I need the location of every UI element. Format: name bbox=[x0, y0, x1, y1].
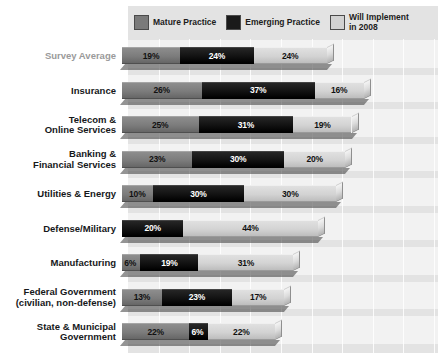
bar-segment-mature[interactable]: 22% bbox=[122, 323, 189, 340]
bar-segment-mature[interactable]: 25% bbox=[122, 116, 199, 133]
bar-end-cap bbox=[345, 147, 352, 167]
segment-value-label: 24% bbox=[209, 51, 225, 61]
bar-end-cap bbox=[284, 285, 291, 305]
bar-area: 6%19%31% bbox=[122, 246, 438, 281]
category-label: Survey Average bbox=[0, 51, 122, 62]
segment-value-label: 10% bbox=[129, 189, 145, 199]
bar-area: 22%6%22% bbox=[122, 315, 438, 350]
stacked-bar[interactable]: 25%31%19% bbox=[122, 116, 351, 133]
bar-end-cap bbox=[318, 216, 325, 236]
bar-segment-will[interactable]: 30% bbox=[244, 185, 336, 202]
bar-segment-will[interactable]: 20% bbox=[284, 151, 345, 168]
category-label: Banking & Financial Services bbox=[0, 149, 122, 170]
chart-legend: Mature PracticeEmerging PracticeWill Imp… bbox=[128, 6, 438, 39]
bar-segment-mature[interactable]: 23% bbox=[122, 151, 192, 168]
bar-shadow bbox=[120, 340, 280, 346]
segment-value-label: 30% bbox=[190, 189, 206, 199]
segment-value-label: 19% bbox=[143, 51, 159, 61]
bar-segment-emerging[interactable]: 31% bbox=[199, 116, 294, 133]
segment-value-label: 23% bbox=[149, 154, 165, 164]
bar-shadow bbox=[120, 99, 369, 105]
chart-row: Insurance26%37%16% bbox=[0, 74, 438, 109]
bar-segment-will[interactable]: 17% bbox=[232, 289, 284, 306]
bar-segment-will[interactable]: 44% bbox=[183, 220, 318, 237]
bar-segment-emerging[interactable]: 20% bbox=[122, 220, 183, 237]
chart-row: State & Municipal Government22%6%22% bbox=[0, 315, 438, 350]
bar-segment-emerging[interactable]: 30% bbox=[192, 151, 284, 168]
segment-value-label: 20% bbox=[307, 154, 323, 164]
bar-area: 25%31%19% bbox=[122, 108, 438, 143]
chart-row: Survey Average19%24%24% bbox=[0, 39, 438, 74]
segment-value-label: 22% bbox=[233, 327, 249, 337]
bar-segment-emerging[interactable]: 24% bbox=[180, 47, 253, 64]
bar-area: 26%37%16% bbox=[122, 74, 438, 109]
bar-shadow bbox=[120, 306, 289, 312]
chart-row: Telecom & Online Services25%31%19% bbox=[0, 108, 438, 143]
bar-shadow bbox=[120, 237, 323, 243]
legend-item-will-implement[interactable]: Will Implement in 2008 bbox=[330, 13, 409, 32]
stacked-bar[interactable]: 23%30%20% bbox=[122, 151, 345, 168]
category-label: Manufacturing bbox=[0, 258, 122, 269]
segment-value-label: 22% bbox=[147, 327, 163, 337]
legend-item-mature[interactable]: Mature Practice bbox=[134, 15, 216, 30]
bar-segment-mature[interactable]: 19% bbox=[122, 47, 180, 64]
segment-value-label: 19% bbox=[314, 120, 330, 130]
bar-shadow bbox=[120, 133, 357, 139]
segment-value-label: 17% bbox=[250, 292, 266, 302]
stacked-bar[interactable]: 22%6%22% bbox=[122, 323, 275, 340]
bar-segment-will[interactable]: 22% bbox=[208, 323, 275, 340]
segment-value-label: 24% bbox=[282, 51, 298, 61]
legend-item-emerging[interactable]: Emerging Practice bbox=[226, 15, 320, 30]
bar-shadow bbox=[120, 202, 341, 208]
segment-value-label: 30% bbox=[282, 189, 298, 199]
segment-value-label: 20% bbox=[144, 223, 160, 233]
category-label: Utilities & Energy bbox=[0, 189, 122, 200]
segment-value-label: 16% bbox=[331, 85, 347, 95]
segment-value-label: 25% bbox=[152, 120, 168, 130]
bar-segment-emerging[interactable]: 37% bbox=[202, 82, 315, 99]
stacked-bar[interactable]: 20%44% bbox=[122, 220, 318, 237]
bar-shadow bbox=[120, 168, 350, 174]
bar-segment-will[interactable]: 19% bbox=[293, 116, 351, 133]
segment-value-label: 6% bbox=[192, 327, 204, 337]
bar-segment-will[interactable]: 16% bbox=[315, 82, 364, 99]
segment-value-label: 30% bbox=[230, 154, 246, 164]
bar-area: 23%30%20% bbox=[122, 143, 438, 178]
stacked-bar[interactable]: 6%19%31% bbox=[122, 254, 293, 271]
bar-segment-emerging[interactable]: 30% bbox=[153, 185, 245, 202]
bar-area: 20%44% bbox=[122, 212, 438, 247]
bar-segment-mature[interactable]: 6% bbox=[122, 254, 140, 271]
category-label: State & Municipal Government bbox=[0, 322, 122, 343]
segment-value-label: 13% bbox=[134, 292, 150, 302]
legend-label: Emerging Practice bbox=[245, 18, 320, 28]
bar-segment-will[interactable]: 31% bbox=[198, 254, 293, 271]
chart-row: Manufacturing6%19%31% bbox=[0, 246, 438, 281]
bar-segment-mature[interactable]: 26% bbox=[122, 82, 202, 99]
category-label: Telecom & Online Services bbox=[0, 115, 122, 136]
chart-row: Defense/Military20%44% bbox=[0, 212, 438, 247]
bar-end-cap bbox=[364, 78, 371, 98]
legend-label: Mature Practice bbox=[153, 18, 216, 28]
bar-segment-mature[interactable]: 13% bbox=[122, 289, 162, 306]
bar-area: 13%23%17% bbox=[122, 281, 438, 316]
bar-segment-emerging[interactable]: 19% bbox=[140, 254, 198, 271]
segment-value-label: 19% bbox=[161, 258, 177, 268]
stacked-bar[interactable]: 19%24%24% bbox=[122, 47, 327, 64]
category-label: Insurance bbox=[0, 86, 122, 97]
category-label: Defense/Military bbox=[0, 224, 122, 235]
bar-segment-emerging[interactable]: 23% bbox=[162, 289, 232, 306]
bar-segment-mature[interactable]: 10% bbox=[122, 185, 153, 202]
stacked-bar[interactable]: 26%37%16% bbox=[122, 82, 364, 99]
segment-value-label: 44% bbox=[242, 223, 258, 233]
bar-area: 10%30%30% bbox=[122, 177, 438, 212]
bar-segment-emerging[interactable]: 6% bbox=[189, 323, 207, 340]
bar-shadow bbox=[120, 271, 298, 277]
will-implement-swatch-icon bbox=[330, 15, 345, 30]
stacked-bar[interactable]: 13%23%17% bbox=[122, 289, 284, 306]
category-label: Federal Government (civilian, non-defens… bbox=[0, 287, 122, 308]
emerging-swatch-icon bbox=[226, 15, 241, 30]
bar-segment-will[interactable]: 24% bbox=[254, 47, 327, 64]
bar-end-cap bbox=[293, 251, 300, 271]
stacked-bar[interactable]: 10%30%30% bbox=[122, 185, 336, 202]
bar-end-cap bbox=[352, 113, 359, 133]
